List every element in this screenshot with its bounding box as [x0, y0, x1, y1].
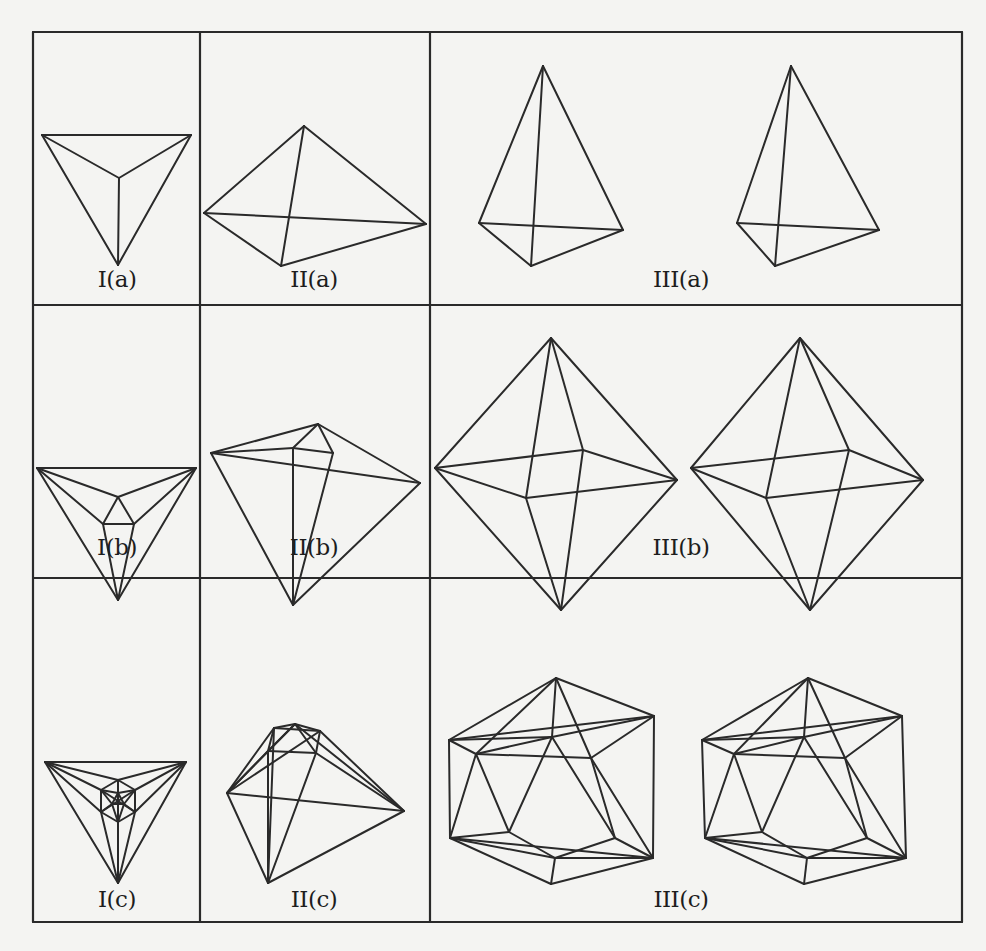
polyhedron-edge	[810, 450, 849, 610]
polyhedron-edge	[705, 838, 906, 858]
polyhedron-edge	[479, 223, 531, 266]
label-IIa: II(a)	[290, 266, 337, 292]
polyhedron-IIIc	[702, 678, 906, 884]
polyhedron-edge	[118, 497, 134, 524]
polyhedron-edge	[320, 731, 404, 811]
polyhedron-edge	[134, 468, 196, 524]
polyhedron-edge	[316, 753, 404, 811]
polyhedron-edge	[293, 453, 333, 605]
polyhedron-Ia	[42, 135, 191, 265]
polyhedron-edge	[762, 737, 804, 832]
polyhedron-edge	[204, 213, 426, 224]
label-IIIc: III(c)	[653, 886, 708, 912]
polyhedron-edge	[845, 758, 867, 838]
polyhedron-edge	[119, 135, 191, 178]
polyhedron-edge	[791, 66, 879, 230]
polyhedron-IIIa	[737, 66, 879, 266]
polyhedra-figure: I(a) II(a) III(a) I(b) II(b) III(b) I(c)…	[0, 0, 986, 951]
polyhedron-edge	[702, 678, 808, 740]
polyhedron-edge	[479, 66, 543, 223]
label-Ia: I(a)	[98, 266, 137, 292]
polyhedron-edge	[37, 468, 103, 524]
polyhedron-edge	[804, 737, 867, 838]
polyhedron-edge	[476, 678, 556, 754]
polyhedron-edge	[435, 450, 583, 468]
polyhedron-edge	[551, 858, 555, 884]
polyhedron-edge	[293, 448, 333, 453]
polyhedron-edge	[476, 754, 509, 832]
polyhedron-IIIb	[435, 338, 677, 610]
polyhedron-edge	[268, 751, 316, 753]
polyhedron-edge	[211, 453, 420, 483]
polyhedron-edge	[705, 832, 762, 838]
polyhedron-edge	[531, 230, 623, 266]
polyhedron-edge	[449, 740, 476, 754]
polyhedron-edge	[775, 66, 791, 266]
polyhedron-edge	[101, 780, 118, 790]
polyhedron-edge	[227, 793, 404, 811]
polyhedron-edge	[118, 780, 135, 790]
polyhedron-edge	[450, 754, 476, 838]
polyhedron-edge	[227, 793, 268, 883]
polyhedron-edge	[450, 838, 551, 884]
label-IIc: II(c)	[291, 886, 338, 912]
polyhedron-edge	[37, 468, 118, 497]
polyhedron-edge	[118, 178, 119, 265]
polyhedron-edge	[591, 758, 615, 838]
label-IIIa: III(a)	[653, 266, 709, 292]
polyhedron-edge	[902, 716, 906, 858]
polyhedron-edge	[304, 126, 426, 224]
polyhedron-edge	[42, 135, 118, 265]
polyhedron-edge	[800, 338, 849, 450]
polyhedron-edge	[551, 338, 677, 480]
polyhedron-edge	[849, 450, 923, 480]
polyhedron-edge	[268, 811, 404, 883]
label-Ib: I(b)	[97, 534, 137, 560]
polyhedron-edge	[281, 224, 426, 266]
polyhedron-edge	[555, 838, 615, 858]
polyhedron-edge	[103, 497, 118, 524]
polyhedron-edge	[552, 737, 615, 838]
polyhedron-edge	[653, 716, 654, 858]
polyhedron-edge	[268, 753, 316, 883]
polyhedron-edge	[227, 728, 274, 793]
polyhedron-edge	[734, 678, 808, 754]
polyhedron-edge	[118, 468, 196, 497]
polyhedron-edge	[551, 858, 653, 884]
polyhedron-edge	[479, 223, 623, 230]
polyhedron-edge	[118, 135, 191, 265]
polyhedron-edge	[204, 126, 304, 213]
polyhedron-edge	[737, 223, 775, 266]
polyhedron-edge	[101, 812, 118, 883]
polyhedron-edge	[561, 450, 583, 610]
polyhedron-edge	[702, 740, 734, 754]
polyhedron-edge	[543, 66, 623, 230]
polyhedron-edge	[737, 66, 791, 223]
polyhedron-IIIb	[691, 338, 923, 610]
polyhedron-edge	[734, 754, 845, 758]
polyhedron-edge	[449, 740, 450, 838]
polyhedron-edge	[734, 754, 762, 832]
polyhedron-edge	[766, 338, 800, 498]
polyhedron-Ic	[45, 762, 186, 883]
polyhedron-edge	[804, 858, 807, 884]
polyhedron-edge	[804, 858, 906, 884]
polyhedron-edge	[705, 838, 807, 858]
polyhedron-edge	[509, 737, 552, 832]
polyhedron-edge	[705, 754, 734, 838]
polyhedron-edge	[810, 480, 923, 610]
polyhedron-IIc	[227, 724, 404, 883]
polyhedron-edge	[204, 213, 281, 266]
label-IIIb: III(b)	[653, 534, 710, 560]
polyhedra-drawings	[0, 0, 986, 951]
polyhedron-edge	[766, 480, 923, 498]
polyhedron-edge	[118, 812, 135, 883]
polyhedron-IIIa	[479, 66, 623, 266]
polyhedron-edge	[227, 724, 295, 793]
polyhedron-edge	[775, 230, 879, 266]
label-Ic: I(c)	[98, 886, 136, 912]
polyhedron-edge	[526, 498, 561, 610]
polyhedron-edge	[281, 126, 304, 266]
polyhedron-edge	[476, 754, 591, 758]
polyhedron-IIIc	[449, 678, 654, 884]
